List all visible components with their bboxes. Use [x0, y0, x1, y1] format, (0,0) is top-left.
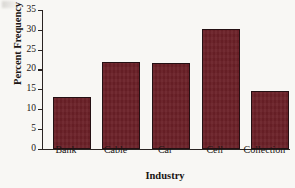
y-tick-label: 25: [27, 43, 37, 56]
y-tick-mark: [38, 50, 43, 51]
y-tick-mark: [38, 69, 43, 70]
y-axis-title: Percent Frequency: [12, 0, 23, 98]
y-tick-mark: [38, 10, 43, 11]
y-tick-label: 35: [27, 3, 37, 16]
plot-area: 05101520253035: [42, 10, 290, 150]
bar: [102, 62, 140, 149]
y-tick-label: 30: [27, 23, 37, 36]
bar: [202, 29, 240, 149]
y-tick-mark: [38, 129, 43, 130]
y-tick-label: 0: [31, 142, 36, 155]
y-tick-label: 20: [27, 62, 37, 75]
x-tick-label: Collection: [235, 144, 293, 155]
y-tick-mark: [38, 30, 43, 31]
bar-chart-figure: Percent Frequency 05101520253035 BankCab…: [0, 0, 295, 188]
y-tick-label: 15: [27, 82, 37, 95]
x-axis-title: Industry: [40, 170, 290, 181]
bar: [53, 97, 91, 148]
bar: [152, 63, 190, 148]
y-tick-mark: [38, 109, 43, 110]
y-tick-mark: [38, 89, 43, 90]
y-tick-label: 10: [27, 102, 37, 115]
y-tick-label: 5: [31, 122, 36, 135]
bar: [251, 91, 289, 148]
